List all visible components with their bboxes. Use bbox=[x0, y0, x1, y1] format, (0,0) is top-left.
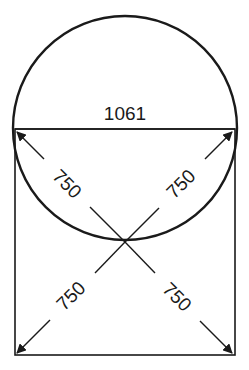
lower-left-arrow bbox=[17, 320, 50, 353]
lower-right-dimension-label: 750 bbox=[158, 278, 195, 315]
lower-left-line bbox=[95, 242, 125, 273]
lower-right-arrow bbox=[200, 321, 232, 353]
chord-dimension-label: 1061 bbox=[104, 103, 146, 124]
geometry-diagram: 1061 750 750 750 750 bbox=[0, 0, 249, 370]
lower-right-line bbox=[125, 242, 155, 273]
upper-left-dimension-label: 750 bbox=[48, 165, 85, 202]
circle-shape bbox=[13, 16, 237, 240]
lower-left-dimension-label: 750 bbox=[52, 277, 89, 314]
upper-left-arrow bbox=[17, 132, 44, 159]
upper-right-arrow bbox=[205, 132, 232, 159]
upper-right-dimension-label: 750 bbox=[162, 165, 199, 202]
